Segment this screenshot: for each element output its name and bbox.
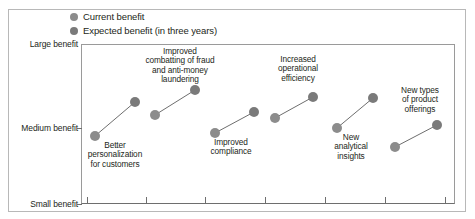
data-point-expected-5[interactable] <box>432 120 442 130</box>
data-point-current-0[interactable] <box>90 131 100 141</box>
series-label-0: Better personalization for customers <box>67 141 163 169</box>
data-point-expected-0[interactable] <box>130 97 140 107</box>
connector-0 <box>95 102 135 136</box>
series-label-5: New types of product offerings <box>386 86 454 114</box>
data-point-expected-2[interactable] <box>249 107 259 117</box>
connector-2 <box>215 112 254 133</box>
connector-1 <box>155 90 195 115</box>
connector-3 <box>275 97 313 118</box>
data-point-expected-1[interactable] <box>190 85 200 95</box>
connector-5 <box>395 125 437 147</box>
series-label-4: New analytical insights <box>318 133 384 161</box>
data-point-current-4[interactable] <box>332 123 342 133</box>
series-label-2: Improved compliance <box>188 138 274 157</box>
chart-screenshot: Current benefit Expected benefit (in thr… <box>0 0 475 219</box>
data-point-expected-3[interactable] <box>308 92 318 102</box>
data-point-current-5[interactable] <box>390 142 400 152</box>
series-label-3: Increased operational efficiency <box>260 55 336 83</box>
data-point-current-1[interactable] <box>150 110 160 120</box>
series-label-1: Improved combatting of fraud and anti-mo… <box>125 47 235 85</box>
connector-4 <box>337 98 373 128</box>
data-point-current-3[interactable] <box>270 113 280 123</box>
data-point-expected-4[interactable] <box>368 93 378 103</box>
